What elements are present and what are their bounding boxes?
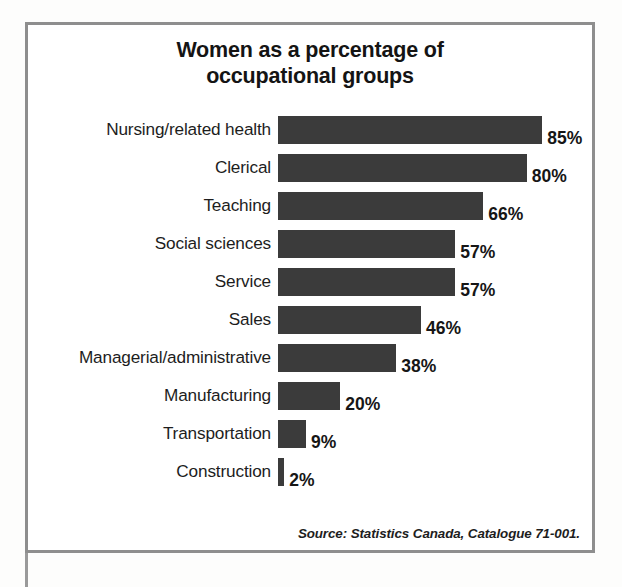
- bar-value-label: 85%: [547, 130, 582, 148]
- bar-track: 66%: [278, 191, 523, 221]
- page-background: Women as a percentage of occupational gr…: [0, 0, 622, 587]
- chart-inner: Women as a percentage of occupational gr…: [28, 25, 592, 550]
- bar-row: Managerial/administrative38%: [28, 343, 592, 373]
- bar-track: 9%: [278, 419, 336, 449]
- bar-value-label: 9%: [311, 434, 336, 452]
- bar-category-label: Clerical: [28, 159, 271, 176]
- bar-fill: [278, 420, 306, 448]
- bar-category-label: Managerial/administrative: [28, 349, 271, 366]
- bar-category-label: Manufacturing: [28, 387, 271, 404]
- chart-title: Women as a percentage of occupational gr…: [28, 37, 592, 89]
- bar-value-label: 2%: [289, 472, 314, 490]
- page-rule-fragment: [25, 553, 28, 587]
- bar-track: 85%: [278, 115, 582, 145]
- chart-title-line-1: Women as a percentage of: [28, 37, 592, 63]
- bar-track: 38%: [278, 343, 436, 373]
- bar-row: Nursing/related health85%: [28, 115, 592, 145]
- bar-value-label: 80%: [532, 168, 567, 186]
- bar-row: Construction2%: [28, 457, 592, 487]
- bar-category-label: Social sciences: [28, 235, 271, 252]
- bar-fill: [278, 458, 284, 486]
- bar-row: Social sciences57%: [28, 229, 592, 259]
- bar-category-label: Teaching: [28, 197, 271, 214]
- bar-category-label: Sales: [28, 311, 271, 328]
- bar-row: Teaching66%: [28, 191, 592, 221]
- bar-track: 20%: [278, 381, 380, 411]
- bar-track: 2%: [278, 457, 315, 487]
- bar-value-label: 20%: [345, 396, 380, 414]
- plot-area: Nursing/related health85%Clerical80%Teac…: [28, 115, 592, 495]
- bar-value-label: 66%: [488, 206, 523, 224]
- bar-row: Transportation9%: [28, 419, 592, 449]
- bar-fill: [278, 306, 421, 334]
- bar-track: 46%: [278, 305, 461, 335]
- bar-row: Service57%: [28, 267, 592, 297]
- bar-fill: [278, 230, 455, 258]
- bar-fill: [278, 192, 483, 220]
- bar-fill: [278, 344, 396, 372]
- bar-value-label: 57%: [460, 244, 495, 262]
- bar-row: Manufacturing20%: [28, 381, 592, 411]
- bar-fill: [278, 116, 542, 144]
- bar-track: 57%: [278, 267, 495, 297]
- bar-fill: [278, 268, 455, 296]
- bar-row: Clerical80%: [28, 153, 592, 183]
- bar-category-label: Construction: [28, 463, 271, 480]
- bar-category-label: Service: [28, 273, 271, 290]
- bar-track: 57%: [278, 229, 495, 259]
- bar-value-label: 38%: [401, 358, 436, 376]
- bar-category-label: Nursing/related health: [28, 121, 271, 138]
- bar-category-label: Transportation: [28, 425, 271, 442]
- bar-fill: [278, 382, 340, 410]
- bar-fill: [278, 154, 527, 182]
- bar-row: Sales46%: [28, 305, 592, 335]
- bar-track: 80%: [278, 153, 567, 183]
- bar-value-label: 46%: [426, 320, 461, 338]
- source-note: Source: Statistics Canada, Catalogue 71-…: [298, 526, 580, 541]
- chart-title-line-2: occupational groups: [28, 63, 592, 89]
- bar-value-label: 57%: [460, 282, 495, 300]
- chart-frame: Women as a percentage of occupational gr…: [25, 22, 595, 553]
